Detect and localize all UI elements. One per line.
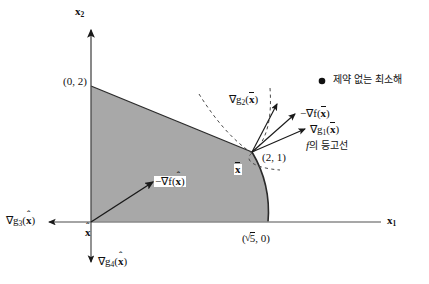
vector-neg-grad-f-bar	[252, 114, 295, 152]
point-label-top: (0, 2)	[63, 76, 87, 87]
contour-annotation: f의 등고선	[306, 140, 348, 151]
vector-label-neg-grad-f-hat: −∇f(ˆx)	[154, 176, 186, 187]
vector-label-grad-g2: ∇g2(x)	[229, 94, 258, 107]
point-label-bottom: (√5, 0)	[242, 233, 270, 244]
point-label-x-hat: ˆx	[85, 227, 91, 238]
point-label-vertex-coord: (2, 1)	[262, 152, 286, 163]
vector-grad-g1	[252, 129, 305, 152]
axis-label-x2: x2	[75, 6, 84, 19]
legend-label: 제약 없는 최소해	[333, 75, 402, 85]
point-label-x-bar: x	[234, 164, 242, 175]
axis-label-x1: x1	[387, 215, 396, 228]
vector-label-grad-g4: ∇g4(ˆx)	[98, 256, 127, 269]
legend-marker-icon	[319, 78, 326, 85]
figure-container: x2 x1 (0, 2) (2, 1) (√5, 0) x ˆx ∇g2(x) …	[0, 0, 429, 284]
vector-label-neg-grad-f-bar: −∇f(x)	[300, 108, 330, 119]
diagram-canvas	[0, 0, 429, 284]
vector-label-grad-g1: ∇g1(x)	[310, 124, 339, 137]
vector-label-grad-g3: ∇g3(ˆx)	[6, 215, 35, 228]
vector-grad-g2	[252, 104, 277, 152]
